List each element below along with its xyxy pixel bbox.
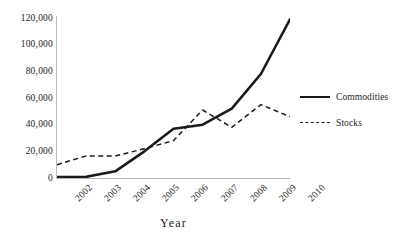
x-tick-label: 2002 (74, 183, 95, 204)
x-tick-label: 2010 (307, 183, 328, 204)
legend-line-solid-icon (300, 92, 330, 102)
x-tick-label: 2007 (220, 183, 241, 204)
x-tick-label: 2006 (190, 183, 211, 204)
chart-legend: Commodities Stocks (300, 84, 405, 136)
x-tick-label: 2008 (249, 183, 270, 204)
x-tick-label: 2003 (103, 183, 124, 204)
legend-label: Commodities (336, 92, 388, 102)
legend-line-dashed-icon (300, 118, 330, 128)
x-tick-label: 2009 (278, 183, 299, 204)
chart-figure: 120,000 100,000 80,000 60,000 40,000 20,… (0, 0, 405, 243)
x-axis-title: Year (57, 216, 290, 231)
legend-item-commodities: Commodities (300, 84, 405, 110)
legend-label: Stocks (336, 118, 362, 128)
x-tick-label: 2004 (132, 183, 153, 204)
x-tick-label: 2005 (161, 183, 182, 204)
legend-item-stocks: Stocks (300, 110, 405, 136)
